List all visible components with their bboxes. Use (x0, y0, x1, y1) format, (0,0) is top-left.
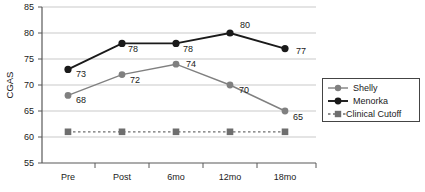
cutoff-marker-0 (65, 129, 72, 136)
data-label-menorka-3: 80 (240, 20, 250, 30)
x-tick-label-pre: Pre (61, 172, 75, 182)
data-label-menorka-2: 78 (183, 44, 193, 54)
cutoff-marker-3 (227, 129, 234, 136)
shelly-point-3 (227, 82, 234, 89)
shelly-point-1 (119, 71, 126, 78)
cgas-line-chart: 85 80 75 70 65 60 55 CGAS Pre Post 6mo 1… (0, 0, 425, 192)
cutoff-marker-1 (119, 129, 126, 136)
data-label-shelly-3: 70 (239, 85, 249, 95)
x-tick-label-6mo: 6mo (167, 172, 185, 182)
menorka-point-2 (172, 40, 179, 47)
cutoff-marker-4 (282, 129, 289, 136)
legend-label-menorka: Menorka (353, 96, 388, 106)
data-label-shelly-1: 72 (130, 75, 140, 85)
legend-marker-menorka (335, 98, 342, 105)
legend-marker-clinical-cutoff (335, 111, 341, 117)
menorka-point-4 (281, 45, 288, 52)
menorka-point-3 (226, 29, 233, 36)
y-tick-label-55: 55 (24, 158, 34, 168)
legend-label-clinical-cutoff: Clinical Cutoff (346, 109, 402, 119)
shelly-point-4 (282, 108, 289, 115)
legend-marker-shelly (335, 85, 341, 91)
x-tick-label-18mo: 18mo (274, 172, 297, 182)
y-tick-label-75: 75 (24, 54, 34, 64)
y-tick-label-80: 80 (24, 28, 34, 38)
data-label-shelly-2: 74 (186, 59, 196, 69)
y-tick-label-60: 60 (24, 132, 34, 142)
cutoff-marker-2 (173, 129, 180, 136)
data-label-menorka-1: 78 (128, 44, 138, 54)
data-label-menorka-4: 77 (296, 46, 306, 56)
shelly-point-0 (65, 92, 72, 99)
menorka-point-0 (64, 66, 71, 73)
y-tick-label-85: 85 (24, 2, 34, 12)
data-label-shelly-0: 68 (76, 95, 86, 105)
x-tick-label-post: Post (113, 172, 132, 182)
data-label-menorka-0: 73 (76, 69, 86, 79)
data-label-shelly-4: 65 (293, 112, 303, 122)
legend-label-shelly: Shelly (353, 83, 378, 93)
y-tick-label-65: 65 (24, 106, 34, 116)
x-tick-label-12mo: 12mo (219, 172, 242, 182)
menorka-point-1 (118, 40, 125, 47)
shelly-point-2 (173, 61, 180, 68)
legend: Shelly Menorka Clinical Cutoff (323, 79, 420, 122)
y-axis-title: CGAS (4, 72, 15, 99)
y-tick-label-70: 70 (24, 80, 34, 90)
